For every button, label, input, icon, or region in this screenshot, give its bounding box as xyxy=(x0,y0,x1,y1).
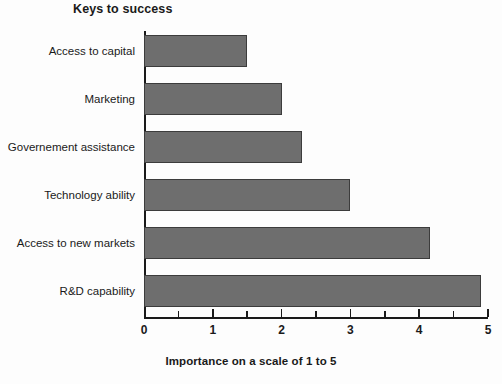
chart-title: Keys to success xyxy=(73,2,172,16)
bar-category-label: Marketing xyxy=(85,83,136,115)
x-tick-label: 2 xyxy=(278,323,285,337)
bar-row: Governement assistance xyxy=(144,127,488,175)
bar xyxy=(144,35,247,67)
bar xyxy=(144,131,302,163)
x-tick-label: 5 xyxy=(485,323,492,337)
bar-chart: Keys to success Access to capitalMarketi… xyxy=(0,0,502,384)
x-tick-label: 4 xyxy=(416,323,423,337)
plot-area: Access to capitalMarketingGovernement as… xyxy=(144,31,488,319)
bar-category-label: Access to new markets xyxy=(17,227,135,259)
x-axis-title: Importance on a scale of 1 to 5 xyxy=(0,355,502,367)
bar-category-label: Technology ability xyxy=(44,179,135,211)
x-tick-label: 1 xyxy=(209,323,216,337)
bar xyxy=(144,83,282,115)
x-tick-major xyxy=(418,309,420,317)
bar-row: Technology ability xyxy=(144,175,488,223)
bar xyxy=(144,179,350,211)
x-tick-minor xyxy=(246,311,248,317)
x-tick-minor xyxy=(384,311,386,317)
bar xyxy=(144,227,430,259)
x-tick-major xyxy=(212,309,214,317)
x-tick-minor xyxy=(178,311,180,317)
x-tick-label: 3 xyxy=(347,323,354,337)
bar-row: Access to new markets xyxy=(144,223,488,271)
x-tick-minor xyxy=(315,311,317,317)
bar-category-label: Access to capital xyxy=(49,35,135,67)
bar-row: Access to capital xyxy=(144,31,488,79)
x-tick-major xyxy=(487,309,489,317)
x-tick-major xyxy=(350,309,352,317)
bar-category-label: R&D capability xyxy=(60,275,135,307)
x-tick-minor xyxy=(453,311,455,317)
bar-category-label: Governement assistance xyxy=(8,131,135,163)
bar-row: Marketing xyxy=(144,79,488,127)
bar xyxy=(144,275,481,307)
x-tick-major xyxy=(281,309,283,317)
x-tick-label: 0 xyxy=(141,323,148,337)
